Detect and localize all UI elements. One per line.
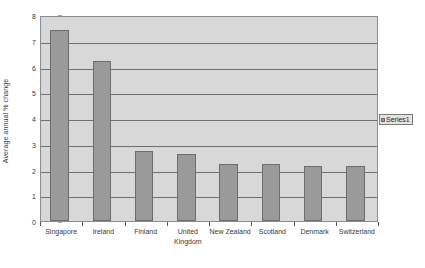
bar[interactable] xyxy=(135,151,154,221)
plot-area xyxy=(40,16,378,222)
bar-slot xyxy=(337,17,379,221)
x-axis-tick-mark xyxy=(125,222,126,226)
x-axis-tick-mark xyxy=(209,222,210,226)
y-axis-tick-label: 3 xyxy=(22,141,36,148)
legend[interactable]: Series1 xyxy=(379,114,413,125)
bar-series xyxy=(41,17,377,221)
y-axis-tick-label: 7 xyxy=(22,38,36,45)
bar[interactable] xyxy=(93,61,112,221)
bar-slot xyxy=(168,17,210,221)
y-axis-tick-label: 2 xyxy=(22,167,36,174)
legend-label-series1: Series1 xyxy=(386,116,410,123)
y-axis-title-text: Average annual % change xyxy=(2,56,9,186)
bar[interactable] xyxy=(219,164,238,221)
x-axis-ticks xyxy=(40,222,378,226)
bar[interactable] xyxy=(50,30,69,221)
bar-slot xyxy=(83,17,125,221)
bar-slot xyxy=(252,17,294,221)
x-axis-tick-mark xyxy=(378,222,379,226)
x-axis-tick-labels: SingaporeIrelandFinlandUnited KingdomNew… xyxy=(40,227,378,257)
y-axis-tick-label: 5 xyxy=(22,90,36,97)
bar-slot xyxy=(210,17,252,221)
x-axis-tick-mark xyxy=(167,222,168,226)
y-axis-tick-label: 6 xyxy=(22,64,36,71)
y-axis-tick-label: 1 xyxy=(22,193,36,200)
x-axis-tick-mark xyxy=(294,222,295,226)
y-axis-tick-labels: 012345678 xyxy=(22,16,36,222)
x-axis-tick-label: Switzerland xyxy=(324,227,390,237)
bar[interactable] xyxy=(304,166,323,221)
bar[interactable] xyxy=(262,164,281,221)
bar[interactable] xyxy=(177,154,196,221)
bar[interactable] xyxy=(346,166,365,221)
bar-slot xyxy=(295,17,337,221)
x-axis-tick-mark xyxy=(251,222,252,226)
y-axis-title: Average annual % change xyxy=(2,0,9,56)
legend-swatch-series1 xyxy=(381,118,385,122)
bar-chart: Average annual % change 012345678 Singap… xyxy=(0,0,425,268)
y-axis-tick-label: 0 xyxy=(22,219,36,226)
y-axis-tick-label: 8 xyxy=(22,13,36,20)
x-axis-tick-mark xyxy=(336,222,337,226)
x-axis-tick-mark xyxy=(82,222,83,226)
bar-slot xyxy=(126,17,168,221)
y-axis-tick-label: 4 xyxy=(22,116,36,123)
bar-slot xyxy=(41,17,83,221)
x-axis-tick-mark xyxy=(40,222,41,226)
